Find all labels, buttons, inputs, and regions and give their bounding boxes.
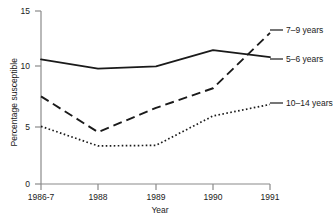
series-label-7-9-years: 7–9 years xyxy=(286,26,323,35)
series-line-5-6-years xyxy=(41,50,270,68)
axes-group xyxy=(35,11,270,190)
x-tick-label-1986-7: 1986-7 xyxy=(11,193,71,202)
chart-container: 15 10 5 0 1986-7 1988 1989 1990 1991 Per… xyxy=(0,0,333,224)
y-axis-title: Percentage susceptible xyxy=(10,42,19,162)
x-tick-label-1990: 1990 xyxy=(183,193,243,202)
x-tick-label-1988: 1988 xyxy=(68,193,128,202)
y-tick-label-15: 15 xyxy=(8,7,30,16)
series-label-5-6-years: 5–6 years xyxy=(286,55,323,64)
x-tick-label-1989: 1989 xyxy=(126,193,186,202)
x-tick-label-1991: 1991 xyxy=(240,193,300,202)
series-line-10-14-years xyxy=(41,104,270,146)
x-axis-title: Year xyxy=(110,206,210,215)
series-group xyxy=(41,33,270,146)
y-tick-label-0: 0 xyxy=(8,180,30,189)
legend-leader-lines xyxy=(270,30,283,103)
series-label-10-14-years: 10–14 years xyxy=(286,99,333,108)
line-chart-plot xyxy=(0,0,333,224)
series-line-7-9-years xyxy=(41,33,270,132)
